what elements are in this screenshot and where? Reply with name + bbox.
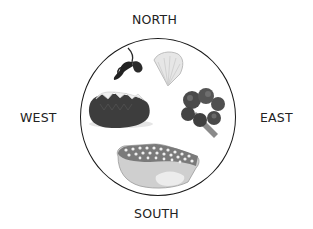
parsley-icon [114,48,143,80]
lemon-wedge-icon [154,52,183,86]
plate-foods [0,0,313,229]
broccoli-icon [181,88,225,138]
baked-potato-icon [89,92,153,128]
salmon-steak-icon [117,144,199,188]
